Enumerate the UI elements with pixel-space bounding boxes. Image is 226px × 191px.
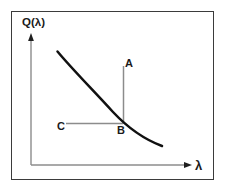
x-axis-label: λ [195,159,202,172]
annotation-label-a: A [125,58,133,69]
wavelength-axis [31,162,192,168]
plot-area [0,0,226,191]
figure-canvas: Q(λ) λ A B C [0,0,226,191]
quantity-axis [28,33,34,165]
annotation-label-b: B [117,125,125,136]
demand-curve [58,52,163,147]
annotation-label-c: C [57,121,65,132]
y-axis-label: Q(λ) [22,17,45,29]
